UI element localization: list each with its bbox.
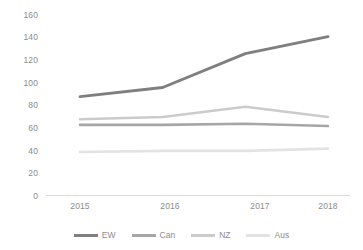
legend-swatch-icon-nz (191, 234, 215, 237)
series-lines (80, 37, 328, 152)
legend-item-nz[interactable]: NZ (191, 231, 230, 240)
legend-swatch-icon-ew (74, 234, 98, 237)
legend-label-nz: NZ (219, 231, 230, 240)
line-chart: 160 140 120 100 80 60 40 20 0 2015 2016 … (0, 0, 363, 250)
legend-swatch-icon-can (132, 234, 156, 237)
legend-item-ew[interactable]: EW (74, 231, 116, 240)
plot-area (0, 0, 363, 250)
legend-label-aus: Aus (274, 231, 289, 240)
x-axis-tick-2017: 2017 (238, 201, 282, 211)
x-axis-tick-2018: 2018 (306, 201, 350, 211)
series-line-can (80, 124, 328, 126)
x-axis-tick-2016: 2016 (148, 201, 192, 211)
legend-item-can[interactable]: Can (132, 231, 176, 240)
series-line-nz (80, 107, 328, 119)
legend-label-can: Can (160, 231, 176, 240)
legend-label-ew: EW (102, 231, 116, 240)
x-axis-tick-2015: 2015 (58, 201, 102, 211)
legend-item-aus[interactable]: Aus (246, 231, 289, 240)
series-line-aus (80, 149, 328, 152)
series-line-ew (80, 37, 328, 97)
legend-swatch-icon-aus (246, 234, 270, 237)
chart-legend: EW Can NZ Aus (0, 226, 363, 244)
